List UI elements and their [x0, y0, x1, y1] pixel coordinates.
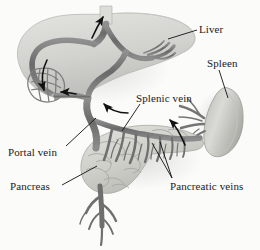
- label-pancreas: Pancreas: [10, 180, 50, 192]
- label-splenic-vein: Splenic vein: [136, 92, 192, 104]
- label-spleen: Spleen: [207, 57, 238, 69]
- label-pancreatic-veins: Pancreatic veins: [170, 180, 243, 192]
- label-portal-vein: Portal vein: [8, 146, 57, 158]
- anatomy-figure: Liver Spleen Splenic vein Portal vein Pa…: [0, 0, 260, 250]
- mesenteric-vein-trunk: [80, 186, 116, 245]
- arrow-portal-inflow: [104, 104, 128, 113]
- label-liver: Liver: [199, 23, 223, 35]
- anatomy-illustration: [0, 0, 260, 250]
